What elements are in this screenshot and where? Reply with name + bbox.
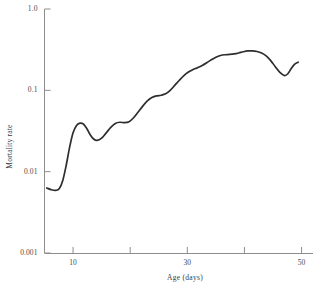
x-axis-ticks bbox=[73, 247, 302, 253]
x-tick-label: 10 bbox=[53, 258, 93, 267]
y-tick-label: 0.001 bbox=[2, 248, 38, 257]
data-series-line bbox=[47, 51, 298, 191]
x-tick-label: 50 bbox=[282, 258, 320, 267]
x-tick-label: 30 bbox=[167, 258, 207, 267]
y-tick-label: 1.0 bbox=[2, 4, 38, 13]
axis-lines bbox=[45, 9, 314, 254]
x-axis-title-text: Age (days) bbox=[117, 273, 203, 282]
chart-figure: Mortality rate Age (days) 0.0010.010.11.… bbox=[0, 0, 320, 293]
y-axis-ticks bbox=[45, 9, 51, 253]
y-tick-label: 0.1 bbox=[2, 85, 38, 94]
chart-plot-area bbox=[0, 0, 320, 293]
y-tick-label: 0.01 bbox=[2, 167, 38, 176]
x-axis-title: Age (days) bbox=[0, 273, 320, 282]
